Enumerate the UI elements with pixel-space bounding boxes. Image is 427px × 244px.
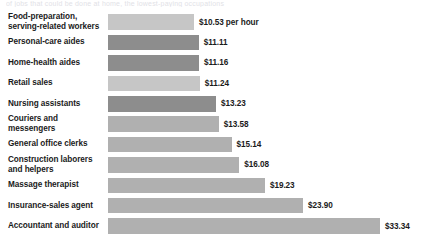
category-label-line1: Insurance-sales agent — [8, 201, 93, 210]
category-label-line1: Nursing assistants — [8, 99, 80, 108]
bar — [108, 157, 239, 173]
bar-value-label: $33.34 — [380, 222, 410, 231]
category-label-line1: Home-health aides — [8, 58, 80, 67]
bar-area: $13.23 — [108, 94, 427, 114]
category-label: Nursing assistants — [0, 99, 108, 109]
bar — [108, 76, 200, 92]
category-label: Couriers and messengers — [0, 114, 108, 135]
category-label: Retail sales — [0, 78, 108, 88]
bar-value-label: $11.24 — [200, 79, 229, 88]
category-label-line2: serving-related workers — [8, 22, 104, 32]
chart-row: Nursing assistants$13.23 — [0, 94, 427, 114]
bar-area: $11.16 — [108, 53, 427, 73]
category-label: Construction laborersand helpers — [0, 155, 108, 176]
category-label: General office clerks — [0, 139, 108, 149]
bar-area: $10.53 per hour — [108, 12, 427, 32]
bar-value-label: $23.90 — [303, 201, 333, 210]
chart-row: Home-health aides$11.16 — [0, 53, 427, 73]
chart-row: Retail sales$11.24 — [0, 73, 427, 93]
bar-value-label: $11.11 — [199, 38, 228, 47]
chart-row: Insurance-sales agent$23.90 — [0, 196, 427, 216]
bar — [108, 137, 232, 153]
bar-area: $33.34 — [108, 216, 427, 236]
cropped-header-text: of jobs that could be done at home, the … — [6, 0, 421, 7]
category-label-line1: Accountant and auditor — [8, 221, 99, 230]
category-label: Massage therapist — [0, 180, 108, 190]
category-label-line1: Retail sales — [8, 78, 52, 87]
category-label-line1: Construction laborers — [8, 155, 92, 164]
bar-area: $11.24 — [108, 73, 427, 93]
bar-area: $19.23 — [108, 175, 427, 195]
bar — [108, 96, 216, 112]
category-label-line1: Personal-care aides — [8, 37, 84, 46]
chart-row: Construction laborersand helpers$16.08 — [0, 155, 427, 175]
bar-value-label: $13.23 — [216, 99, 246, 108]
bar-value-label: $11.16 — [199, 58, 228, 67]
chart-row: Massage therapist$19.23 — [0, 175, 427, 195]
bar — [108, 178, 265, 194]
category-label: Food-preparation,serving-related workers — [0, 12, 108, 33]
bar — [108, 218, 380, 234]
category-label-line1: Massage therapist — [8, 180, 79, 189]
bar-value-label: $15.14 — [232, 140, 262, 149]
category-label: Accountant and auditor — [0, 221, 108, 231]
chart-row: Personal-care aides$11.11 — [0, 32, 427, 52]
bar — [108, 198, 303, 214]
chart-row: General office clerks$15.14 — [0, 134, 427, 154]
category-label-line1: General office clerks — [8, 139, 88, 148]
bar-area: $11.11 — [108, 32, 427, 52]
bar-area: $23.90 — [108, 196, 427, 216]
bar — [108, 55, 199, 71]
category-label: Personal-care aides — [0, 37, 108, 47]
chart-row: Accountant and auditor$33.34 — [0, 216, 427, 236]
bar-area: $16.08 — [108, 155, 427, 175]
category-label: Home-health aides — [0, 58, 108, 68]
bar-chart: of jobs that could be done at home, the … — [0, 0, 427, 244]
chart-row: Couriers and messengers$13.58 — [0, 114, 427, 134]
chart-rows: Food-preparation,serving-related workers… — [0, 12, 427, 236]
bar — [108, 35, 199, 51]
category-label-line1: Couriers and messengers — [8, 114, 58, 133]
category-label-line2: and helpers — [8, 165, 104, 175]
bar-value-label: $19.23 — [265, 181, 295, 190]
bar-area: $13.58 — [108, 114, 427, 134]
bar-value-label: $10.53 per hour — [194, 18, 259, 27]
category-label-line1: Food-preparation, — [8, 12, 77, 21]
bar-value-label: $13.58 — [219, 120, 249, 129]
category-label: Insurance-sales agent — [0, 201, 108, 211]
bar-area: $15.14 — [108, 134, 427, 154]
bar-value-label: $16.08 — [239, 160, 269, 169]
bar — [108, 116, 219, 132]
bar — [108, 14, 194, 30]
chart-row: Food-preparation,serving-related workers… — [0, 12, 427, 32]
